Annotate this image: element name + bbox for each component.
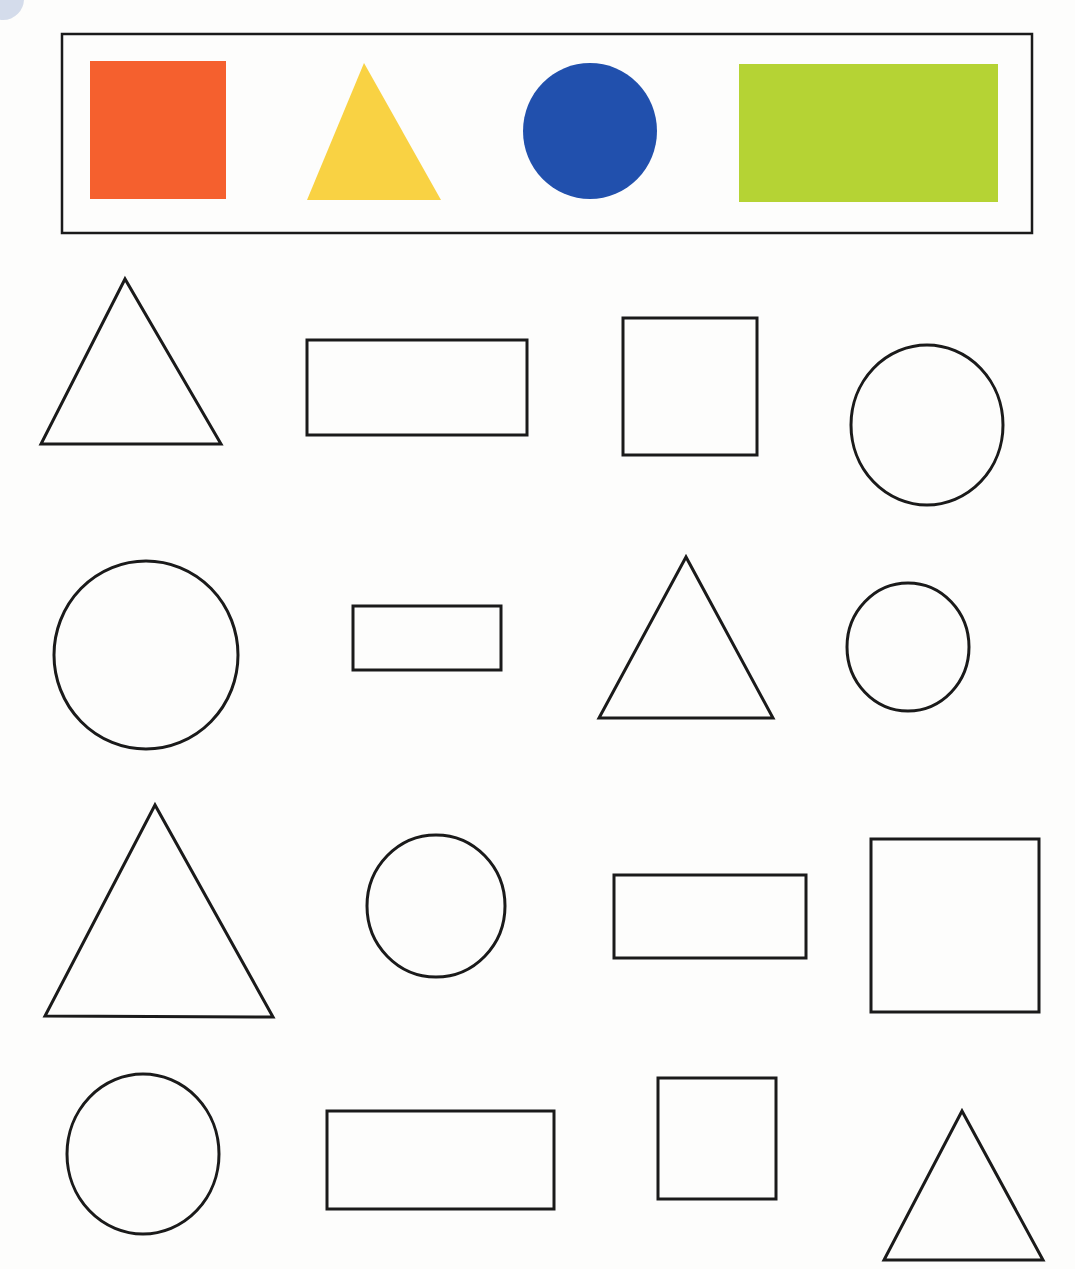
worksheet-canvas (0, 0, 1075, 1269)
outline-triangle-r2-c3[interactable] (599, 557, 773, 718)
outline-circle-r4-c1[interactable] (67, 1074, 219, 1234)
legend-square-icon (90, 61, 226, 199)
legend-triangle-icon (307, 63, 441, 200)
outline-circle-r3-c2[interactable] (367, 835, 505, 977)
outline-rectangle-r2-c2[interactable] (353, 606, 501, 670)
color-legend (62, 34, 1032, 233)
legend-rectangle-icon (739, 64, 998, 202)
outline-triangle-r3-c1[interactable] (45, 805, 273, 1017)
legend-circle-icon (523, 63, 657, 199)
outline-rectangle-r1-c2[interactable] (307, 340, 527, 435)
worksheet-page (0, 0, 1075, 1269)
outline-circle-r2-c1[interactable] (54, 561, 238, 749)
outline-triangle-r1-c1[interactable] (41, 279, 221, 444)
outline-circle-r1-c4[interactable] (851, 345, 1003, 505)
outline-circle-r2-c4[interactable] (847, 583, 969, 711)
shapes-to-color-grid (41, 279, 1043, 1260)
outline-rectangle-r3-c3[interactable] (614, 875, 806, 958)
outline-rectangle-r4-c2[interactable] (327, 1111, 554, 1209)
outline-square-r4-c3[interactable] (658, 1078, 776, 1199)
outline-square-r1-c3[interactable] (623, 318, 757, 455)
outline-triangle-r4-c4[interactable] (884, 1111, 1043, 1260)
outline-square-r3-c4[interactable] (871, 839, 1039, 1012)
